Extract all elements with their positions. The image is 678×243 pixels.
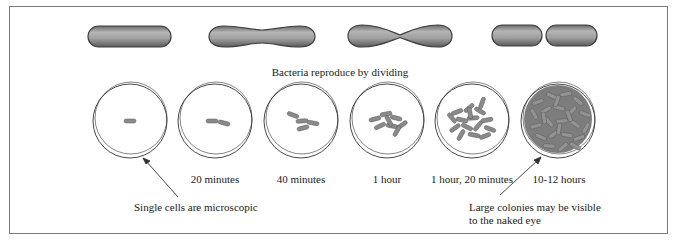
bacteria-dish-2	[206, 119, 230, 126]
arrow-to-single-cell	[143, 158, 178, 197]
bacterium-elongating-icon	[209, 26, 315, 47]
time-label-1-hour-20-minutes: 1 hour, 20 minutes	[431, 173, 513, 186]
bacteria-dish-1	[124, 119, 136, 123]
annotation-colonies-line1: Large colonies may be visible	[469, 201, 601, 214]
annotation-colonies-line2: to the naked eye	[469, 214, 541, 227]
bacterium-pinching-icon	[348, 25, 452, 47]
time-label-20-minutes: 20 minutes	[191, 173, 240, 186]
bacteria-dish-5	[447, 97, 497, 142]
bacteria-colony-dish-6	[524, 85, 592, 153]
time-label-40-minutes: 40 minutes	[277, 173, 326, 186]
bacteria-dish-4	[369, 111, 408, 137]
bacteria-dish-3	[287, 111, 320, 131]
time-label-10-12-hours: 10-12 hours	[533, 173, 586, 186]
time-label-1-hour: 1 hour	[373, 173, 401, 186]
bacterium-divided-icon	[492, 25, 597, 46]
diagram-title: Bacteria reproduce by dividing	[272, 66, 409, 79]
bacterium-single-icon	[88, 26, 171, 47]
annotation-single-cells: Single cells are microscopic	[134, 201, 258, 214]
